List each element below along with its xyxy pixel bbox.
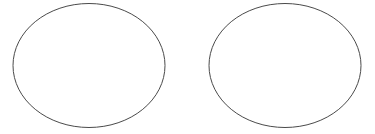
drawing-canvas (0, 0, 375, 134)
ellipse-figure (0, 0, 375, 134)
canvas-background (0, 0, 375, 134)
